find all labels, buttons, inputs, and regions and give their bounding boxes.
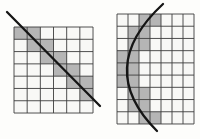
grids-figure-svg: [0, 0, 200, 139]
curve-grid-shaded-cell: [128, 63, 139, 75]
curve-grid-shaded-cell: [139, 38, 150, 50]
diagonal-line-grid-shaded-cell: [27, 39, 40, 51]
figure-canvas: [0, 0, 200, 139]
curve-grid-shaded-cell: [139, 87, 150, 99]
diagonal-line-grid-shaded-cell: [40, 39, 53, 51]
curve-grid-shaded-cell: [150, 112, 161, 124]
diagonal-line-grid-shaded-cell: [80, 88, 93, 100]
curve-grid-shaded-cell: [117, 51, 128, 63]
